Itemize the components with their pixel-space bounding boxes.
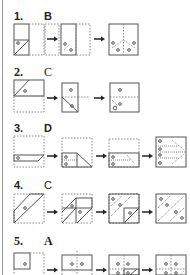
fold-diagram-3 bbox=[0, 112, 190, 168]
problem-5: 5. A bbox=[0, 224, 190, 275]
fold-diagram-5 bbox=[0, 224, 190, 275]
problem-4: 4. C bbox=[0, 168, 190, 224]
problem-3: 3. D bbox=[0, 112, 190, 168]
fold-diagram-2 bbox=[0, 56, 190, 112]
fold-diagram-1 bbox=[0, 0, 190, 56]
problem-2: 2. C bbox=[0, 56, 190, 112]
fold-diagram-4 bbox=[0, 168, 190, 224]
problem-1: 1. B bbox=[0, 0, 190, 56]
